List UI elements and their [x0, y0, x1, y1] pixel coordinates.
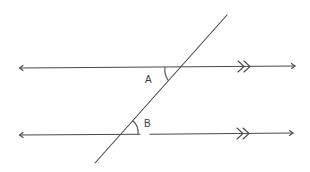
bottom-parallel-line: [20, 128, 294, 139]
transversal-line: [95, 15, 227, 163]
angle-label-b: B: [144, 118, 151, 129]
angle-arc-a: [165, 68, 168, 81]
angle-label-a: A: [145, 74, 152, 85]
parallel-lines-diagram: A B: [0, 0, 310, 172]
top-parallel-line: [20, 61, 296, 72]
angle-arc-b: [133, 121, 138, 134]
